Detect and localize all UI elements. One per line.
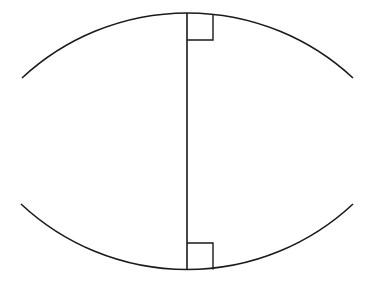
geometry-figure — [0, 0, 374, 289]
right-angle-marker-top — [187, 14, 213, 40]
diagram-canvas — [0, 0, 374, 289]
right-angle-marker-bottom — [187, 243, 213, 270]
